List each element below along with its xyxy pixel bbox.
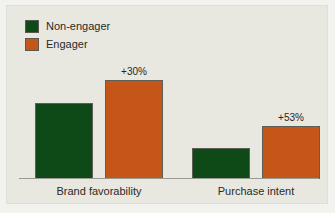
bar-brand-favorability-engager — [105, 80, 163, 179]
bar-value-purchase-intent-engager: +53% — [262, 112, 320, 123]
bar-brand-favorability-non-engager — [35, 103, 93, 179]
x-axis-label-purchase-intent: Purchase intent — [192, 185, 320, 197]
bar-purchase-intent-engager — [262, 126, 320, 179]
bar-purchase-intent-non-engager — [192, 148, 250, 179]
bar-value-brand-favorability-engager: +30% — [105, 66, 163, 77]
chart-container: Non-engager Engager +30% +53% Brand favo… — [6, 5, 328, 204]
x-axis-baseline — [19, 178, 319, 179]
x-axis-label-brand-favorability: Brand favorability — [35, 185, 163, 197]
plot-area: +30% +53% Brand favorability Purchase in… — [7, 6, 327, 203]
